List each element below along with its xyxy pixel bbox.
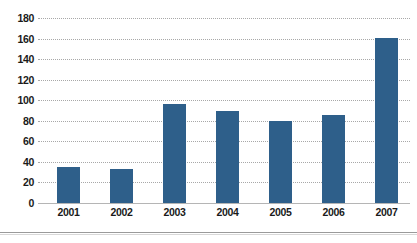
bar-2004 <box>216 111 239 204</box>
y-tick-label: 100 <box>0 94 34 106</box>
y-tick-label: 40 <box>0 156 34 168</box>
bars-layer <box>38 18 410 203</box>
y-tick-label: 180 <box>0 12 34 24</box>
bar-chart-figure: 180 160 140 120 100 80 60 40 20 0 2001 2… <box>0 0 417 243</box>
x-tick-label-2004: 2004 <box>198 206 258 218</box>
y-tick-label: 80 <box>0 115 34 127</box>
x-tick-label-2006: 2006 <box>304 206 364 218</box>
x-tick-label-2007: 2007 <box>357 206 417 218</box>
gridline-axis-zero <box>38 203 410 204</box>
y-tick-label: 60 <box>0 135 34 147</box>
y-tick-label: 0 <box>0 197 34 209</box>
y-tick-label: 140 <box>0 53 34 65</box>
x-tick-label-2005: 2005 <box>251 206 311 218</box>
bar-2003 <box>163 104 186 203</box>
x-tick-label-2001: 2001 <box>39 206 99 218</box>
plot-area <box>38 18 410 203</box>
bar-2005 <box>269 121 292 203</box>
bar-2001 <box>57 167 80 203</box>
x-tick-label-2002: 2002 <box>92 206 152 218</box>
bar-2006 <box>322 115 345 203</box>
x-tick-label-2003: 2003 <box>145 206 205 218</box>
x-axis: 2001 2002 2003 2004 2005 2006 2007 <box>38 206 410 224</box>
footer-divider <box>0 232 417 233</box>
y-tick-label: 20 <box>0 176 34 188</box>
footer-divider-shadow <box>0 234 417 235</box>
y-tick-label: 120 <box>0 74 34 86</box>
y-tick-label: 160 <box>0 33 34 45</box>
bar-2007 <box>375 38 398 203</box>
bar-2002 <box>110 169 133 203</box>
